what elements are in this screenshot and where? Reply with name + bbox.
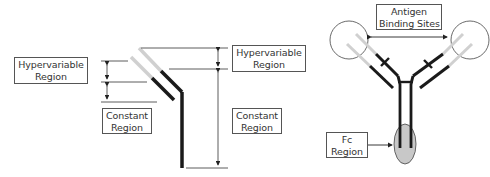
fc-ellipse	[394, 124, 416, 164]
label-line: Region	[235, 122, 279, 134]
label-line: Region	[329, 146, 365, 158]
label-line: Fc	[329, 134, 365, 146]
label-line: Region	[17, 71, 85, 83]
label-line: Region	[235, 59, 303, 71]
label-line: Region	[105, 122, 149, 134]
label-hypervariable-left: Hypervariable Region	[14, 57, 88, 84]
left-dimension-marks	[101, 61, 157, 102]
label-line: Binding Sites	[379, 18, 439, 30]
label-constant-right: Constant Region	[232, 108, 282, 134]
label-line: Constant	[105, 110, 149, 122]
label-antigen-binding-sites: Antigen Binding Sites	[376, 4, 442, 30]
label-line: Antigen	[379, 6, 439, 18]
label-line: Constant	[235, 110, 279, 122]
label-constant-left: Constant Region	[102, 108, 152, 134]
label-line: Hypervariable	[235, 47, 303, 59]
label-fc-region: Fc Region	[326, 132, 368, 158]
label-line: Hypervariable	[17, 59, 85, 71]
label-hypervariable-right: Hypervariable Region	[232, 45, 306, 72]
